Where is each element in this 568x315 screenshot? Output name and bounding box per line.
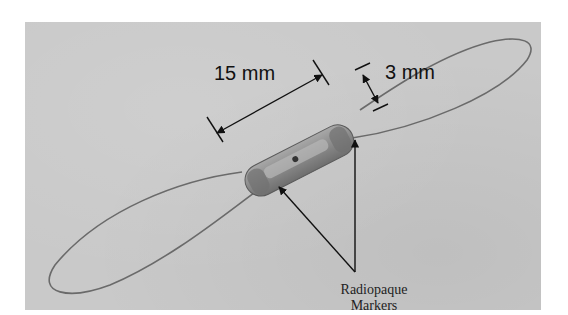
capsule-body [240, 119, 360, 201]
diameter-label: 3 mm [385, 61, 435, 83]
wire-loop-right [352, 39, 531, 138]
device-illustration: 15 mm 3 mm Radiopaque Markers [0, 0, 568, 315]
diameter-dimension [355, 63, 388, 111]
wire-loop-left [49, 172, 258, 293]
markers-label-line1: Radiopaque [341, 282, 408, 297]
length-label: 15 mm [214, 62, 275, 84]
markers-label-line2: Markers [351, 298, 398, 313]
